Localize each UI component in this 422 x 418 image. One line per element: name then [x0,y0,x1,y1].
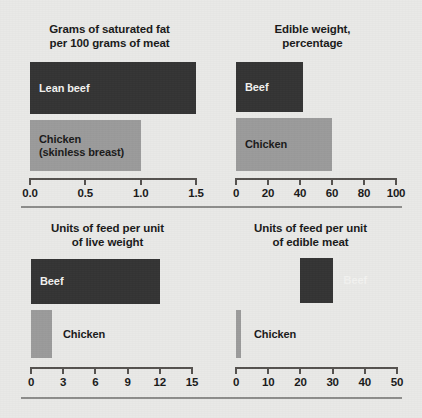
x-axis-tick [267,367,269,374]
bar-chicken-skinless: Chicken (skinless breast) [30,120,141,171]
x-axis-tick-label: 50 [391,376,403,388]
x-axis-tick-label: 1.0 [133,187,148,199]
x-axis-tick [395,178,397,185]
x-axis-edible-weight: 0 20 40 60 80 100 [236,178,396,179]
bar-label-chicken-edible-weight: Chicken [236,138,287,151]
bar-label-lean-beef: Lean beef [30,82,89,95]
x-axis-tick [30,367,32,374]
chart-title-saturated-fat: Grams of saturated fat per 100 grams of … [18,22,201,50]
bar-label-chicken-feed-edible-meat: Chicken [241,328,296,341]
bar-lean-beef: Lean beef [30,62,196,114]
x-axis-tick [299,178,301,185]
chart-title-feed-live-weight: Units of feed per unit of live weight [14,221,201,249]
x-axis-tick-label: 3 [60,376,66,388]
x-axis-line [236,367,397,369]
chart-panel-edible-weight: Edible weight, percentage Beef Chicken 0… [211,0,422,207]
x-axis-tick-label: 0 [233,376,239,388]
x-axis-tick [140,178,142,185]
x-axis-tick-label: 15 [186,376,198,388]
x-axis-tick-label: 12 [154,376,166,388]
x-axis-tick-label: 20 [294,376,306,388]
bar-beef-feed-edible-meat: Beef [300,258,332,303]
x-axis-tick-label: 6 [92,376,98,388]
x-axis-tick [94,367,96,374]
bar-label-beef-edible-weight: Beef [236,81,268,94]
x-axis-tick [191,367,193,374]
chart-panel-saturated-fat: Grams of saturated fat per 100 grams of … [0,0,211,207]
x-axis-tick-label: 100 [387,187,406,199]
bar-label-beef-feed-edible-meat: Beef [333,274,367,287]
x-axis-line [30,178,196,180]
x-axis-tick [396,367,398,374]
x-axis-tick [62,367,64,374]
x-axis-tick [159,367,161,374]
bar-beef-edible-weight: Beef [236,62,303,112]
x-axis-tick-label: 1.5 [188,187,203,199]
chart-panel-feed-edible-meat: Units of feed per unit of edible meat Be… [211,208,422,398]
x-axis-feed-live-weight: 0 3 6 9 12 15 [31,367,192,368]
x-axis-tick-label: 40 [294,187,306,199]
x-axis-tick-label: 0.5 [78,187,93,199]
x-axis-tick-label: 0.0 [22,187,37,199]
x-axis-tick [235,367,237,374]
x-axis-tick-label: 20 [262,187,274,199]
x-axis-tick [364,367,366,374]
x-axis-tick [299,367,301,374]
bar-label-beef-feed-live-weight: Beef [31,275,63,288]
section-divider-middle [21,206,402,208]
x-axis-tick-label: 9 [124,376,130,388]
x-axis-tick-label: 0 [28,376,34,388]
x-axis-tick-label: 60 [326,187,338,199]
x-axis-tick-label: 30 [326,376,338,388]
x-axis-tick-label: 40 [359,376,371,388]
x-axis-tick-label: 0 [233,187,239,199]
chart-title-feed-edible-meat: Units of feed per unit of edible meat [221,221,400,249]
x-axis-tick [331,178,333,185]
x-axis-tick [195,178,197,185]
bar-label-chicken-skinless: Chicken (skinless breast) [30,133,124,158]
bar-beef-feed-live-weight: Beef [31,259,160,304]
x-axis-saturated-fat: 0.0 0.5 1.0 1.5 [30,178,196,179]
bar-chicken-feed-live-weight: Chicken [31,310,52,358]
x-axis-tick [84,178,86,185]
x-axis-line [31,367,192,369]
x-axis-tick [235,178,237,185]
x-axis-tick-label: 80 [358,187,370,199]
chart-grid: Grams of saturated fat per 100 grams of … [0,0,422,418]
chart-panel-feed-live-weight: Units of feed per unit of live weight Be… [0,208,211,398]
bar-label-chicken-feed-live-weight: Chicken [52,328,105,341]
x-axis-tick [127,367,129,374]
section-divider-bottom [21,397,402,399]
x-axis-tick-label: 10 [262,376,274,388]
x-axis-tick [332,367,334,374]
x-axis-tick [29,178,31,185]
x-axis-line [236,178,396,180]
x-axis-tick [363,178,365,185]
bar-chicken-edible-weight: Chicken [236,118,332,171]
x-axis-feed-edible-meat: 0 10 20 30 40 50 [236,367,397,368]
bar-chicken-feed-edible-meat: Chicken [236,310,241,358]
chart-title-edible-weight: Edible weight, percentage [225,22,400,50]
x-axis-tick [267,178,269,185]
